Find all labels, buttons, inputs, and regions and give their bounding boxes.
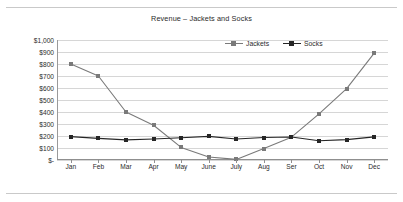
chart-page: Revenue – Jackets and Socks $1,000$900$8… [0, 0, 403, 202]
y-axis-tick-label: $- [2, 157, 54, 164]
y-axis-tick-label: $900 [2, 49, 54, 56]
x-axis-tick-label: Apr [148, 163, 158, 170]
y-axis-tick-label: $200 [2, 133, 54, 140]
data-point-socks [234, 137, 238, 141]
x-axis-tick-label: Jan [65, 163, 76, 170]
data-point-jackets [317, 112, 321, 116]
series-line-jackets [71, 53, 374, 159]
x-axis-tick-label: Ser [286, 163, 296, 170]
data-point-jackets [262, 147, 266, 151]
x-axis-tick-label: Aug [258, 163, 270, 170]
data-point-socks [152, 137, 156, 141]
legend-swatch-icon [225, 40, 243, 47]
top-divider-rule [6, 7, 397, 8]
x-axis-tick-label: June [202, 163, 216, 170]
y-axis-tick-label: $500 [2, 97, 54, 104]
x-axis-tick-label: Nov [341, 163, 353, 170]
data-point-socks [207, 134, 211, 138]
series-lines [57, 40, 388, 160]
data-point-socks [345, 138, 349, 142]
chart-title: Revenue – Jackets and Socks [0, 14, 403, 23]
chart-legend: JacketsSocks [225, 40, 323, 47]
data-point-jackets [372, 51, 376, 55]
data-point-socks [262, 136, 266, 140]
data-point-socks [124, 138, 128, 142]
series-line-socks [71, 136, 374, 140]
y-axis-tick-label: $700 [2, 73, 54, 80]
data-point-socks [372, 135, 376, 139]
data-point-socks [96, 136, 100, 140]
x-axis-labels: JanFebMarAprMayJuneJulyAugSerOctNovDec [57, 163, 388, 177]
bottom-divider-rule [6, 193, 397, 194]
y-axis-tick-label: $400 [2, 109, 54, 116]
y-axis-tick-label: $300 [2, 121, 54, 128]
x-axis-tick-label: July [230, 163, 242, 170]
x-axis-tick-label: Dec [368, 163, 380, 170]
legend-label: Socks [304, 40, 323, 47]
legend-item-socks[interactable]: Socks [283, 40, 323, 47]
y-axis-tick-label: $100 [2, 145, 54, 152]
legend-label: Jackets [246, 40, 269, 47]
legend-swatch-icon [283, 40, 301, 47]
data-point-jackets [152, 123, 156, 127]
data-point-socks [179, 136, 183, 140]
data-point-socks [69, 135, 73, 139]
data-point-jackets [124, 110, 128, 114]
x-axis-tick-label: Feb [93, 163, 104, 170]
data-point-jackets [69, 62, 73, 66]
y-axis-tick-label: $1,000 [2, 37, 54, 44]
gridline [57, 160, 388, 161]
plot-area [57, 40, 388, 160]
x-axis-tick-label: Oct [314, 163, 324, 170]
y-axis-labels: $1,000$900$800$700$600$500$400$300$200$1… [0, 40, 54, 160]
data-point-jackets [96, 74, 100, 78]
y-axis-tick-label: $600 [2, 85, 54, 92]
series-layer [57, 40, 388, 160]
data-point-socks [317, 139, 321, 143]
x-axis-tick-label: May [175, 163, 187, 170]
data-point-jackets [345, 87, 349, 91]
x-axis-tick-label: Mar [120, 163, 131, 170]
data-point-jackets [207, 155, 211, 159]
y-axis-tick-label: $800 [2, 61, 54, 68]
data-point-socks [289, 135, 293, 139]
data-point-jackets [179, 145, 183, 149]
legend-item-jackets[interactable]: Jackets [225, 40, 269, 47]
